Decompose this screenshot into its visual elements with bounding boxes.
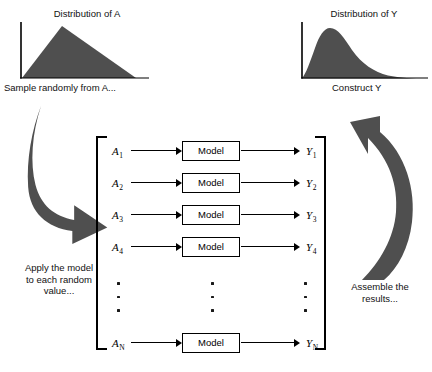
distribution-y-title: Distribution of Y [300,8,428,19]
output-variable: Y1 [306,140,316,164]
output-arrowhead [294,211,300,219]
input-connector [131,342,178,343]
output-connector [241,150,297,151]
output-arrowhead [294,243,300,251]
output-variable: Y3 [306,204,316,228]
output-arrowhead [294,179,300,187]
distribution-a-chart [12,22,152,84]
triangle-area [22,26,136,78]
assemble-results-arrow [338,106,424,286]
distribution-y-chart [294,22,430,84]
model-box[interactable]: Model [182,333,240,353]
assemble-results-label: Assemble the results... [340,281,420,304]
sample-caption: Sample randomly from A... [4,82,116,93]
output-variable: Y4 [306,236,316,260]
model-box[interactable]: Model [182,141,240,161]
output-connector [241,246,297,247]
skewed-distribution-plot [294,22,430,84]
input-connector [131,214,178,215]
output-arrowhead [294,339,300,347]
model-box[interactable]: Model [182,237,240,257]
process-row: A2 Model Y2 [95,172,335,194]
process-row: A1 Model Y1 [95,140,335,162]
output-connector [241,342,297,343]
distribution-a-title: Distribution of A [22,8,152,19]
construct-caption: Construct Y [332,82,381,93]
input-connector [131,182,178,183]
diagram-canvas: Distribution of A Sample randomly from A… [0,0,432,372]
input-connector [131,150,178,151]
input-variable: A2 [112,172,122,196]
model-box[interactable]: Model [182,173,240,193]
input-variable: AN [112,332,124,356]
input-variable: A3 [112,204,122,228]
input-connector [131,246,178,247]
output-variable: Y2 [306,172,316,196]
ellipsis-input-column [117,282,121,323]
output-arrowhead [294,147,300,155]
process-row: A3 Model Y3 [95,204,335,226]
input-variable: A1 [112,140,122,164]
process-row: AN Model YN [95,332,335,354]
triangular-distribution-plot [12,22,152,84]
input-variable: A4 [112,236,122,260]
ellipsis-model-column [211,282,215,323]
skewed-area [302,28,425,79]
output-connector [241,214,297,215]
output-connector [241,182,297,183]
output-variable: YN [306,332,318,356]
process-row: A4 Model Y4 [95,236,335,258]
ellipsis-output-column [304,282,308,323]
arrow-body [350,116,413,280]
apply-model-label: Apply the model to each random value... [22,262,96,297]
model-box[interactable]: Model [182,205,240,225]
curved-arrow-up-left [338,106,424,282]
